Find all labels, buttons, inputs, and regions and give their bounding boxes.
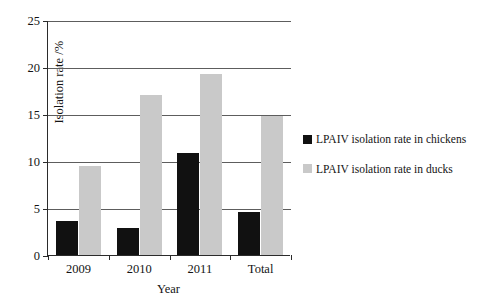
bar-2010-chickens [117, 228, 139, 255]
y-axis-tick [43, 162, 48, 163]
bar-2010-ducks [140, 95, 162, 255]
gridline [48, 21, 291, 22]
bar-total-chickens [238, 212, 260, 255]
gridline [48, 115, 291, 116]
y-axis-tick [43, 115, 48, 116]
y-axis-tick-label: 15 [28, 109, 41, 122]
gridline [48, 68, 291, 69]
y-axis-tick-label: 20 [28, 62, 41, 75]
x-axis-tick [170, 255, 171, 260]
x-axis-tick [48, 255, 49, 260]
x-axis-label-2009: 2009 [66, 263, 91, 276]
x-axis-tick [230, 255, 231, 260]
gridline [48, 162, 291, 163]
legend-item-ducks: LPAIV isolation rate in ducks [303, 163, 475, 176]
y-axis-tick [43, 209, 48, 210]
y-axis-tick-label: 0 [34, 250, 40, 263]
legend-swatch-ducks [303, 164, 312, 173]
bar-2011-chickens [177, 153, 199, 255]
x-axis-label-2011: 2011 [188, 263, 213, 276]
y-axis-tick-label: 5 [34, 203, 40, 216]
x-axis-label-total: Total [248, 263, 274, 276]
y-axis-tick [43, 21, 48, 22]
x-axis-tick [291, 255, 292, 260]
legend-swatch-chickens [303, 135, 312, 144]
y-axis-tick-label: 25 [28, 15, 41, 28]
x-axis-label-2010: 2010 [127, 263, 152, 276]
bar-total-ducks [261, 116, 283, 255]
chart-legend: LPAIV isolation rate in chickensLPAIV is… [303, 133, 475, 192]
y-axis-tick-label: 10 [28, 156, 41, 169]
legend-item-chickens: LPAIV isolation rate in chickens [303, 133, 475, 146]
bar-2009-ducks [79, 166, 101, 255]
bar-2009-chickens [56, 221, 78, 255]
plot-area: 0510152025200920102011Total [47, 21, 290, 256]
legend-label: LPAIV isolation rate in ducks [316, 163, 453, 176]
bar-2011-ducks [200, 74, 222, 255]
y-axis-tick [43, 68, 48, 69]
x-axis-tick [109, 255, 110, 260]
legend-label: LPAIV isolation rate in chickens [316, 133, 466, 146]
x-axis-title: Year [47, 283, 290, 296]
bar-chart: Isolation rate /% 0510152025200920102011… [0, 0, 477, 303]
